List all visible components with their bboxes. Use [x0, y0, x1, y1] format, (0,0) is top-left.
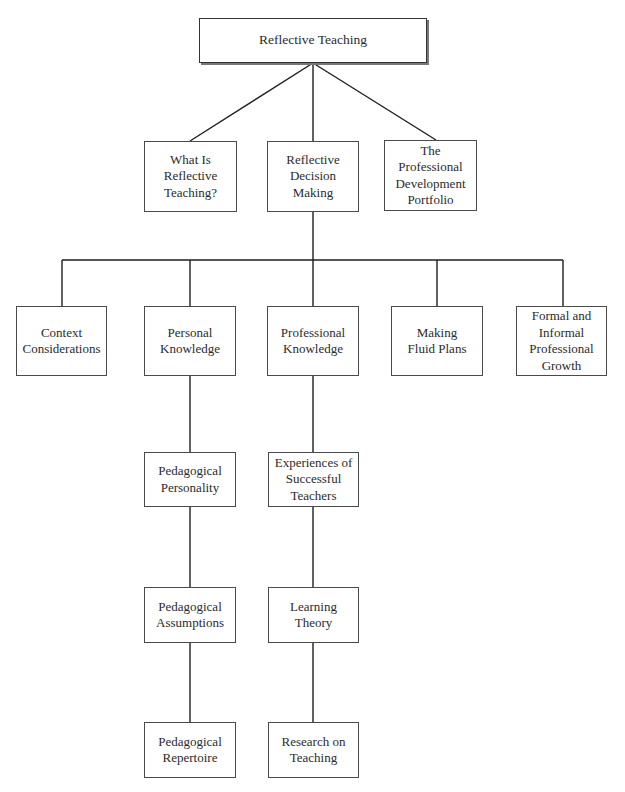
node-label: The Professional Development Portfolio	[395, 143, 465, 209]
node-professional-development-portfolio: The Professional Development Portfolio	[384, 140, 477, 211]
node-label: Pedagogical Repertoire	[158, 734, 222, 767]
node-context-considerations: Context Considerations	[16, 306, 107, 376]
node-personal-knowledge: Personal Knowledge	[144, 306, 236, 376]
node-label: Professional Knowledge	[281, 325, 345, 358]
concept-map-diagram: Reflective Teaching What Is Reflective T…	[0, 0, 625, 792]
node-label: What Is Reflective Teaching?	[164, 152, 217, 202]
node-making-fluid-plans: Making Fluid Plans	[391, 306, 483, 376]
connector-root-what-is	[190, 63, 313, 141]
node-professional-knowledge: Professional Knowledge	[267, 306, 359, 376]
node-experiences-successful-teachers: Experiences of Successful Teachers	[268, 452, 359, 507]
node-pedagogical-assumptions: Pedagogical Assumptions	[144, 587, 236, 643]
node-label: Research on Teaching	[282, 734, 346, 767]
node-formal-informal-growth: Formal and Informal Professional Growth	[516, 306, 607, 376]
node-label: Pedagogical Personality	[158, 463, 222, 496]
node-label: Making Fluid Plans	[408, 325, 467, 358]
node-reflective-decision-making: Reflective Decision Making	[267, 141, 359, 212]
node-label: Experiences of Successful Teachers	[275, 455, 353, 505]
node-label: Reflective Teaching	[259, 32, 367, 49]
node-pedagogical-repertoire: Pedagogical Repertoire	[144, 722, 236, 778]
node-label: Learning Theory	[290, 599, 337, 632]
connector-lines	[0, 0, 625, 792]
node-reflective-teaching: Reflective Teaching	[199, 18, 427, 63]
node-label: Formal and Informal Professional Growth	[529, 308, 593, 374]
node-learning-theory: Learning Theory	[268, 587, 359, 643]
node-label: Personal Knowledge	[160, 325, 220, 358]
node-label: Reflective Decision Making	[286, 152, 339, 202]
connector-root-portfolio	[313, 63, 436, 140]
node-label: Pedagogical Assumptions	[156, 599, 224, 632]
node-what-is-reflective-teaching: What Is Reflective Teaching?	[144, 141, 237, 212]
node-research-on-teaching: Research on Teaching	[268, 722, 359, 778]
node-pedagogical-personality: Pedagogical Personality	[144, 452, 236, 507]
node-label: Context Considerations	[23, 325, 101, 358]
